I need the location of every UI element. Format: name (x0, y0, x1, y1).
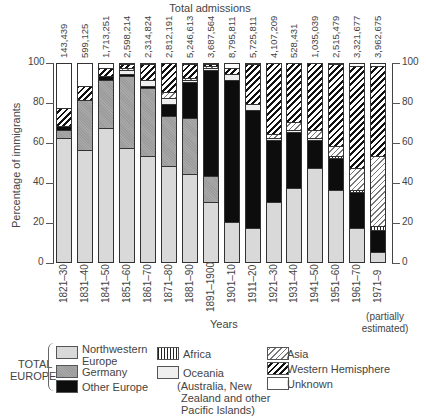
legend-brace (48, 343, 55, 391)
segment-western-hemisphere (99, 68, 113, 76)
admissions-label: 3,962,675 (372, 16, 383, 58)
segment-other-europe (99, 76, 113, 80)
bar-1961–70 (349, 63, 365, 263)
legend-label-unknown: Unknown (287, 378, 333, 390)
x-tick-label: 1921–30 (268, 264, 279, 303)
legend-swatch-northwestern-europe (56, 346, 78, 359)
legend-label-africa: Africa (183, 348, 211, 360)
admissions-label: 2,314,824 (142, 16, 153, 58)
segment-western-hemisphere (120, 64, 134, 68)
segment-unknown (329, 63, 343, 64)
admissions-label: 5,725,811 (247, 16, 258, 58)
segment-western-hemisphere (183, 64, 197, 78)
segment-unknown (204, 63, 218, 64)
segment-asia (371, 156, 385, 226)
segment-unknown (57, 63, 71, 108)
y-tick-mark (392, 103, 400, 104)
admissions-label: 3,687,564 (205, 16, 216, 58)
x-tick-label: 1961–70 (351, 264, 362, 303)
legend-swatch-oceania (157, 366, 179, 379)
y-tick-left: 60 (33, 136, 44, 147)
x-tick-label: 1971–9 (372, 270, 383, 303)
x-axis-title: Years (210, 318, 238, 330)
segment-northwestern-europe (141, 156, 155, 262)
bar-1821–30 (56, 63, 72, 263)
segment-northwestern-europe (246, 228, 260, 262)
legend-swatch-asia (267, 347, 289, 360)
bar-1891–1900 (203, 63, 219, 263)
segment-germany (141, 88, 155, 156)
segment-africa (329, 156, 343, 158)
legend-label-other-europe: Other Europe (82, 381, 148, 393)
segment-asia (162, 92, 176, 98)
admissions-label: 1,713,251 (100, 16, 111, 58)
admissions-label: 143,439 (58, 24, 69, 58)
segment-unknown (78, 63, 92, 86)
segment-western-hemisphere (141, 64, 155, 80)
segment-other-europe (225, 80, 239, 222)
segment-oceania (120, 70, 134, 74)
segment-oceania (308, 138, 322, 140)
segment-western-hemisphere (225, 68, 239, 74)
y-tick-mark (392, 223, 400, 224)
segment-western-hemisphere (371, 66, 385, 156)
admissions-label: 2,515,479 (330, 16, 341, 58)
segment-germany (162, 116, 176, 166)
segment-germany (183, 118, 197, 174)
segment-northwestern-europe (120, 148, 134, 262)
legend-swatch-unknown (267, 377, 289, 390)
y-tick-right: 100 (402, 56, 419, 67)
segment-northwestern-europe (78, 150, 92, 262)
bar-1931–40 (286, 63, 302, 263)
segment-africa (350, 190, 364, 192)
segment-western-hemisphere (57, 108, 71, 126)
admissions-label: 1,035,039 (309, 16, 320, 58)
y-tick-mark (46, 263, 54, 264)
x-tick-label: 1881–90 (184, 264, 195, 303)
y-tick-mark (46, 143, 54, 144)
segment-unknown (120, 63, 134, 64)
legend-oceania-note: (Australia, New Zealand and other Pacifi… (177, 380, 270, 416)
segment-western-hemisphere (308, 63, 322, 130)
admissions-label: 5,246,613 (184, 16, 195, 58)
bar-1851–60 (119, 63, 135, 263)
bar-1901–10 (224, 63, 240, 263)
admissions-label: 2,812,191 (163, 16, 174, 58)
y-tick-mark (392, 143, 400, 144)
x-tick-label: 1891–1900 (205, 262, 216, 312)
y-tick-right: 0 (402, 256, 408, 267)
y-tick-mark (46, 183, 54, 184)
legend-label-northwestern-europe: NorthwesternEurope (82, 343, 147, 367)
segment-other-europe (246, 110, 260, 228)
segment-asia (308, 130, 322, 138)
y-tick-right: 40 (402, 176, 413, 187)
legend-swatch-western-hemisphere (267, 362, 289, 375)
legend-swatch-africa (157, 347, 179, 360)
segment-asia (183, 78, 197, 80)
segment-other-europe (350, 192, 364, 228)
segment-other-europe (204, 70, 218, 176)
chart-title: Total admissions (169, 2, 250, 14)
segment-western-hemisphere (287, 63, 301, 122)
legend-label-oceania: Oceania (183, 367, 224, 379)
x-tick-label: 1861–70 (142, 264, 153, 303)
y-axis-left (53, 63, 54, 263)
bar-1971–9 (370, 63, 386, 263)
segment-africa (371, 226, 385, 230)
segment-asia (120, 68, 134, 70)
legend-group-label: TOTAL EUROPE (18, 358, 44, 382)
segment-oceania (225, 74, 239, 80)
bar-1871–80 (161, 63, 177, 263)
x-tick-label: 1841–50 (100, 264, 111, 303)
segment-northwestern-europe (308, 168, 322, 262)
segment-oceania (267, 138, 281, 140)
segment-oceania (204, 68, 218, 70)
segment-oceania (162, 98, 176, 104)
y-tick-mark (46, 103, 54, 104)
segment-other-europe (287, 132, 301, 188)
y-tick-left: 80 (33, 96, 44, 107)
segment-northwestern-europe (329, 190, 343, 262)
x-tick-label: 1821–30 (58, 264, 69, 303)
y-tick-mark (392, 263, 400, 264)
segment-western-hemisphere (267, 63, 281, 134)
